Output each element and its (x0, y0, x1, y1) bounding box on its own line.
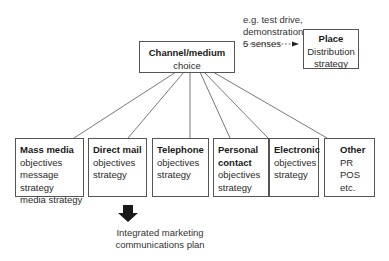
result-text: Integrated marketing communications plan (90, 227, 230, 251)
result-line: Integrated marketing (90, 227, 230, 239)
place-box: Place Distribution strategy (303, 29, 359, 69)
place-line: strategy (304, 58, 358, 71)
channel-medium-box: Channel/medium choice (139, 41, 235, 73)
box-line: objectives (274, 157, 318, 170)
annotation-line: e.g. test drive, (243, 14, 306, 26)
electronic-title: Electronic (274, 144, 318, 157)
box-line: PR (340, 157, 374, 170)
box-line: objectives (218, 169, 268, 182)
telephone-title: Telephone (157, 144, 208, 157)
place-title: Place (304, 33, 358, 46)
result-line: communications plan (90, 239, 230, 251)
direct-mail-title: Direct mail (93, 144, 146, 157)
personal-contact-title: contact (218, 157, 268, 170)
down-arrow-icon (118, 205, 138, 222)
box-line: objectives (157, 157, 208, 170)
channel-subtitle: choice (140, 60, 234, 73)
box-line: strategy (218, 182, 268, 195)
other-box: Other PR POS etc. (324, 138, 375, 197)
place-line: Distribution (304, 46, 358, 59)
personal-contact-box: Personal contact objectives strategy (213, 138, 269, 197)
annotation-line: 5 senses (243, 38, 306, 50)
annotation-text: e.g. test drive, demonstration, 5 senses (243, 14, 306, 50)
box-line: strategy (274, 169, 318, 182)
electronic-box: Electronic objectives strategy (269, 138, 319, 197)
box-line: POS (340, 169, 374, 182)
personal-contact-title: Personal (218, 144, 268, 157)
mass-media-title: Mass media (20, 144, 83, 157)
direct-mail-box: Direct mail objectives strategy (88, 138, 147, 197)
box-line: objectives (93, 157, 146, 170)
box-line: objectives (20, 157, 83, 170)
box-line: strategy (157, 169, 208, 182)
box-line: media strategy (20, 194, 83, 207)
telephone-box: Telephone objectives strategy (152, 138, 209, 197)
box-line: message strategy (20, 169, 83, 194)
channel-title: Channel/medium (140, 47, 234, 60)
annotation-line: demonstration, (243, 26, 306, 38)
other-title: Other (340, 144, 374, 157)
mass-media-box: Mass media objectives message strategy m… (15, 138, 84, 197)
box-line: etc. (340, 182, 374, 195)
box-line: strategy (93, 169, 146, 182)
